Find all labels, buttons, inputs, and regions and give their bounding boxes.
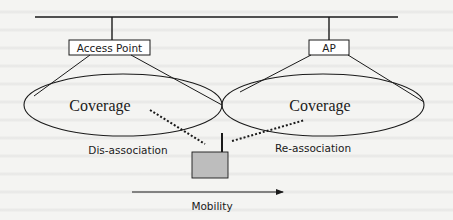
ap1-beam-right	[131, 55, 222, 105]
coverage-2-label: Coverage	[289, 97, 350, 115]
ap1-beam-left	[34, 55, 90, 96]
access-point-2-label: AP	[322, 42, 336, 54]
reassociation-dotted-line	[232, 120, 305, 141]
mobile-station	[192, 133, 228, 178]
disassociation-dotted-line	[150, 110, 205, 144]
access-point-2: AP	[309, 40, 349, 55]
station-body	[192, 152, 228, 178]
wireless-mobility-diagram: Access Point AP Coverage Coverage Dis-as…	[0, 0, 453, 220]
mobility-label: Mobility	[191, 200, 232, 212]
access-point-1-label: Access Point	[77, 42, 142, 54]
ap2-beam-right	[348, 55, 424, 102]
access-point-1: Access Point	[69, 40, 150, 55]
disassociation-label: Dis-association	[88, 144, 167, 156]
reassociation-label: Re-association	[275, 142, 351, 154]
ap2-beam-left	[240, 55, 311, 92]
coverage-1-label: Coverage	[69, 97, 130, 115]
